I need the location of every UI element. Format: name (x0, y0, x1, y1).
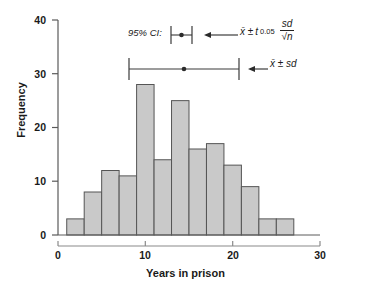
x-tick-label-20: 20 (218, 249, 248, 261)
histogram-bar (84, 192, 101, 235)
histogram-bar (137, 85, 154, 236)
x-tick-label-0: 0 (43, 249, 73, 261)
bar-group (67, 85, 294, 236)
histogram-bar (206, 144, 223, 235)
ci-arrow-head (204, 32, 211, 38)
ci-formula-numerator: sd (280, 19, 295, 31)
histogram-bar (172, 101, 189, 235)
y-tick-label-0: 0 (20, 229, 46, 241)
ci-annotation-label: 95% CI: (128, 27, 162, 38)
histogram-bar (154, 160, 171, 235)
sd-annotation-formula: x̄ ± sd (270, 58, 297, 69)
x-tick-label-10: 10 (130, 249, 160, 261)
ci-mean-dot (179, 33, 184, 38)
sd-arrow (248, 66, 268, 72)
histogram-bar (189, 149, 206, 235)
ci-formula-denominator: √n (281, 31, 292, 42)
y-tick-label-10: 10 (20, 175, 46, 187)
sd-arrow-head (248, 66, 255, 72)
x-tick-label-30: 30 (305, 249, 335, 261)
y-axis-title: Frequency (15, 65, 27, 155)
x-axis-title: Years in prison (0, 267, 371, 279)
ci-annotation-formula: x̄ ± t0.05 sd √n (240, 20, 294, 43)
histogram-bar (276, 219, 293, 235)
ci-formula-t-subscript: 0.05 (260, 27, 275, 36)
y-tick-label-40: 40 (20, 14, 46, 26)
ci-error-bar (171, 26, 192, 44)
ci-arrow (204, 32, 238, 38)
histogram-figure: 0 10 20 30 40 0 10 20 30 Frequency Years… (0, 0, 371, 294)
histogram-bar (67, 219, 84, 235)
histogram-bar (102, 171, 119, 236)
histogram-bar (224, 165, 241, 235)
sd-mean-dot (182, 67, 187, 72)
sd-error-bar (129, 58, 239, 80)
ci-formula-t: t (255, 26, 258, 37)
histogram-bar (259, 219, 276, 235)
histogram-bar (241, 187, 258, 235)
ci-formula-fraction: sd √n (280, 19, 295, 42)
histogram-bar (119, 176, 136, 235)
ci-formula-mean: x̄ ± (240, 26, 253, 37)
